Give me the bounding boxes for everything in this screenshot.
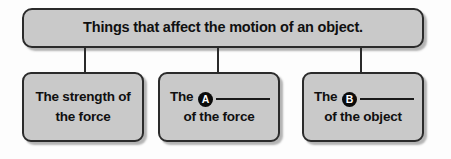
root-node: Things that affect the motion of an obje… xyxy=(22,8,424,48)
child-node-3-prefix: The xyxy=(314,89,337,104)
answer-blank-b[interactable] xyxy=(360,87,414,100)
child-node-3: The B of the object xyxy=(302,72,424,142)
child-node-1-label: The strength of the force xyxy=(28,87,137,126)
child-node-2: The A of the force xyxy=(158,72,280,142)
connector-line-1 xyxy=(84,48,86,72)
connector-line-3 xyxy=(360,48,362,72)
child-node-1: The strength of the force xyxy=(22,72,144,142)
child-node-3-line-2: of the object xyxy=(312,107,414,127)
child-node-3-line-1: The B xyxy=(312,87,414,107)
child-node-2-line-1: The A xyxy=(168,87,270,107)
child-node-2-line-2: of the force xyxy=(168,107,270,127)
child-node-3-label: The B of the object xyxy=(305,87,421,126)
marker-a-icon: A xyxy=(198,92,213,107)
root-node-label: Things that affect the motion of an obje… xyxy=(77,20,369,35)
child-node-1-line-1: The strength of xyxy=(35,87,130,107)
child-node-2-prefix: The xyxy=(170,89,193,104)
connector-line-2 xyxy=(217,48,219,72)
child-node-1-line-2: the force xyxy=(35,107,130,127)
marker-b-icon: B xyxy=(342,92,357,107)
child-node-2-label: The A of the force xyxy=(161,87,277,126)
concept-map-diagram: Things that affect the motion of an obje… xyxy=(0,0,451,159)
answer-blank-a[interactable] xyxy=(216,87,270,100)
